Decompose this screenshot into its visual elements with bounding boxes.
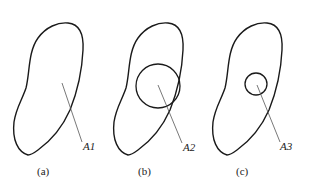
figure: A1 A2 A3 (a) (b) (c) bbox=[0, 0, 309, 187]
panel-c bbox=[213, 23, 282, 155]
caption-b: (b) bbox=[138, 166, 151, 177]
caption-c: (c) bbox=[236, 166, 248, 177]
leader-line bbox=[257, 85, 280, 142]
callout-label-c: A3 bbox=[280, 141, 292, 152]
region-outline bbox=[213, 23, 282, 155]
region-outline bbox=[114, 23, 183, 155]
caption-a: (a) bbox=[37, 166, 49, 177]
leader-line bbox=[62, 83, 82, 142]
callout-label-a: A1 bbox=[83, 141, 95, 152]
inner-circle bbox=[245, 73, 267, 95]
panel-a bbox=[14, 23, 83, 155]
panel-b bbox=[114, 23, 183, 155]
figure-drawing bbox=[0, 0, 309, 187]
region-outline bbox=[14, 23, 83, 155]
callout-label-b: A2 bbox=[183, 142, 195, 153]
